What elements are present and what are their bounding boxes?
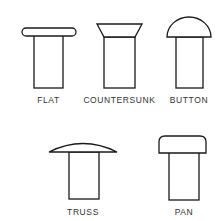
- button-label: BUTTON: [170, 95, 208, 105]
- button-shank: [176, 37, 203, 88]
- rivet-pan: PAN: [159, 136, 206, 217]
- flat-shank: [34, 35, 63, 88]
- pan-label: PAN: [175, 207, 194, 217]
- rivet-flat: FLAT: [22, 28, 76, 105]
- rivet-button: BUTTON: [167, 17, 211, 105]
- countersunk-head: [97, 24, 142, 37]
- truss-label: TRUSS: [67, 207, 99, 217]
- countersunk-shank: [104, 37, 135, 88]
- pan-head: [159, 136, 206, 153]
- button-head: [167, 17, 211, 37]
- truss-head: [49, 144, 117, 153]
- countersunk-label: COUNTERSUNK: [83, 95, 155, 105]
- flat-label: FLAT: [37, 95, 60, 105]
- flat-head: [22, 28, 76, 36]
- truss-shank: [69, 152, 99, 199]
- rivet-head-diagram: FLAT COUNTERSUNK BUTTON TRUSS PAN: [0, 0, 222, 221]
- rivet-countersunk: COUNTERSUNK: [83, 24, 155, 105]
- pan-shank: [169, 152, 199, 200]
- rivet-truss: TRUSS: [49, 144, 117, 218]
